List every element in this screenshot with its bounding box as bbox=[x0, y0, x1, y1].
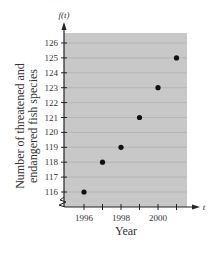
y-tick-label: 124 bbox=[45, 68, 59, 78]
y-axis-label-line-2: endangered fish species bbox=[26, 69, 40, 183]
y-axis-arrow-icon bbox=[62, 22, 67, 30]
y-tick-label: 116 bbox=[45, 187, 59, 197]
x-axis-variable: t bbox=[203, 202, 206, 212]
y-axis-variable: f(t) bbox=[59, 10, 70, 20]
scatter-chart: 116117118119120121122123124125126 199619… bbox=[0, 0, 212, 254]
y-tick-label: 125 bbox=[45, 53, 59, 63]
y-tick-label: 126 bbox=[45, 38, 59, 48]
y-axis-label: Number of threatened and endangered fish… bbox=[13, 63, 40, 189]
y-tick-label: 123 bbox=[45, 83, 59, 93]
data-point bbox=[155, 85, 160, 90]
x-tick-label: 2000 bbox=[149, 213, 168, 223]
plot-background bbox=[64, 33, 187, 207]
y-axis-label-line-1: Number of threatened and bbox=[13, 63, 27, 189]
data-point bbox=[118, 145, 123, 150]
y-tick-label: 122 bbox=[45, 98, 59, 108]
x-axis-arrow-icon bbox=[192, 205, 200, 210]
y-tick-label: 119 bbox=[45, 142, 59, 152]
x-tick-label: 1998 bbox=[112, 213, 131, 223]
data-point bbox=[81, 189, 86, 194]
y-tick-label: 117 bbox=[45, 172, 59, 182]
y-tick-label: 118 bbox=[45, 157, 59, 167]
x-axis-label: Year bbox=[115, 224, 137, 238]
y-tick-label: 121 bbox=[45, 113, 59, 123]
y-tick-label: 120 bbox=[45, 127, 59, 137]
data-point bbox=[100, 160, 105, 165]
x-tick-label: 1996 bbox=[75, 213, 94, 223]
data-point bbox=[174, 55, 179, 60]
data-point bbox=[137, 115, 142, 120]
